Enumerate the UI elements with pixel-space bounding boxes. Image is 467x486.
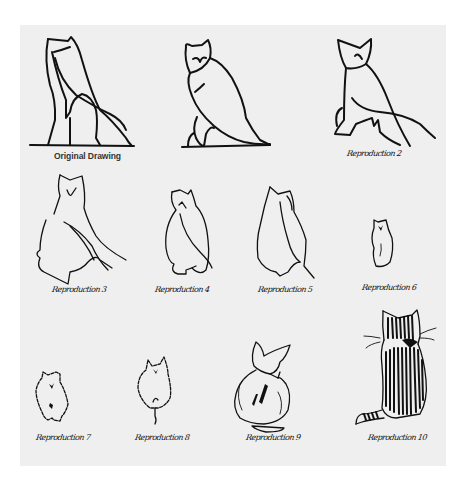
drawing-reproduction-8 xyxy=(36,372,68,421)
drawing-reproduction-11 xyxy=(356,310,436,424)
drawing-reproduction-10 xyxy=(235,342,290,432)
caption-reproduction-2: Reproduction 2 xyxy=(346,149,402,158)
caption-reproduction-4: Reproduction 4 xyxy=(154,285,210,294)
drawing-reproduction-9 xyxy=(138,357,171,424)
caption-original-drawing: Original Drawing xyxy=(54,150,121,161)
caption-reproduction-7: Reproduction 7 xyxy=(35,433,91,442)
caption-reproduction-8: Reproduction 8 xyxy=(134,433,190,442)
caption-reproduction-5: Reproduction 5 xyxy=(257,285,313,294)
drawings-canvas-3 xyxy=(0,0,467,486)
caption-reproduction-9: Reproduction 9 xyxy=(245,433,301,442)
caption-reproduction-6: Reproduction 6 xyxy=(361,283,417,292)
caption-reproduction-3: Reproduction 3 xyxy=(51,285,107,294)
caption-reproduction-10: Reproduction 10 xyxy=(367,433,427,442)
